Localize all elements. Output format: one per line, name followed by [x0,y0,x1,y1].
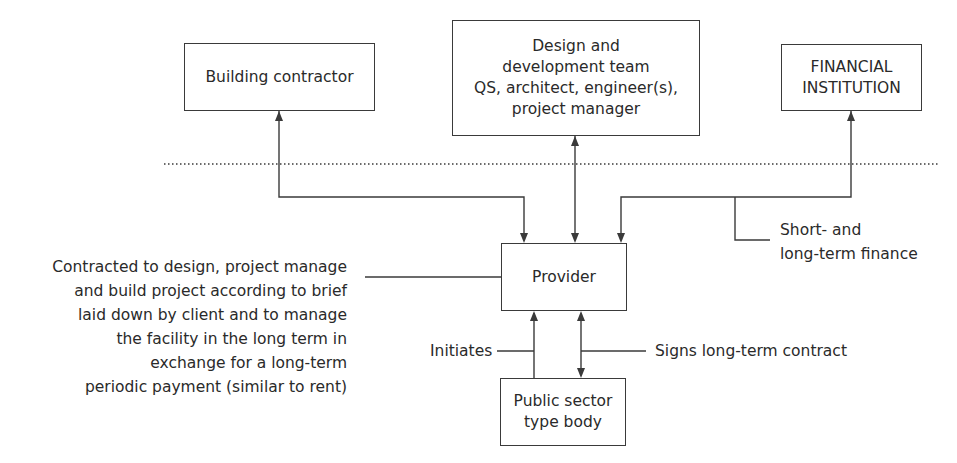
finance-line-2: long-term finance [780,242,918,266]
provider-box: Provider [501,243,627,311]
provider-role-annotation: Contracted to design, project manage and… [52,255,347,399]
design-team-line-2: development team [502,57,649,78]
building-contractor-label: Building contractor [205,67,353,88]
provider-role-line-4: the facility in the long term in [52,327,347,351]
initiates-label: Initiates [430,341,492,361]
public-sector-box: Public sector type body [500,378,626,446]
provider-role-line-2: and build project according to brief [52,279,347,303]
public-sector-line-2: type body [524,412,602,433]
public-sector-line-1: Public sector [514,391,613,412]
finance-annotation: Short- and long-term finance [780,218,918,266]
provider-role-line-1: Contracted to design, project manage [52,255,347,279]
design-team-line-3: QS, architect, engineer(s), [474,78,678,99]
provider-role-line-5: exchange for a long-term [52,351,347,375]
financial-institution-box: FINANCIAL INSTITUTION [781,44,922,111]
design-team-line-4: project manager [512,99,640,120]
provider-role-line-6: periodic payment (similar to rent) [52,375,347,399]
financial-institution-line-1: FINANCIAL [811,57,893,78]
provider-label: Provider [532,267,596,288]
financial-institution-line-2: INSTITUTION [802,78,901,99]
design-team-box: Design and development team QS, architec… [452,20,700,136]
finance-line-1: Short- and [780,218,918,242]
provider-role-line-3: laid down by client and to manage [52,303,347,327]
building-contractor-box: Building contractor [184,43,375,111]
design-team-line-1: Design and [532,36,620,57]
signs-contract-label: Signs long-term contract [655,341,847,361]
